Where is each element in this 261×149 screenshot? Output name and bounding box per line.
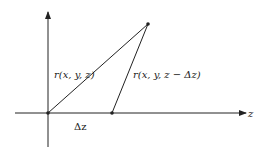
origin-point <box>46 111 50 115</box>
label-delta-z: Δz <box>74 121 87 132</box>
label-r1: r(x, y, z) <box>54 69 95 80</box>
apex-point <box>146 22 150 26</box>
shifted-point <box>110 111 114 115</box>
z-axis-label: z <box>247 108 254 119</box>
label-r2: r(x, y, z − Δz) <box>133 69 201 80</box>
diagram: z r(x, y, z) r(x, y, z − Δz) Δz <box>0 0 261 149</box>
